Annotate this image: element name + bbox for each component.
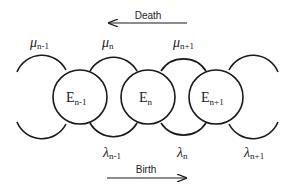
arc-top [90,57,137,71]
death-rates: μn-1 μn μn+1 [29,35,194,51]
death-rate-label: μn-1 [29,35,49,51]
birth-arrow: Birth [107,164,186,178]
arc-top [161,59,206,71]
arc-top [229,55,278,72]
birth-rate-label: λn [176,145,188,161]
arc-bottom [161,123,206,135]
birth-rate-label: λn-1 [102,145,121,161]
death-arrow: Death [109,10,187,23]
birth-death-diagram: Death μn-1 μn μn+1 En-1 En En+1 λn-1 λ [0,0,291,191]
birth-rates: λn-1 λn λn+1 [102,145,264,161]
death-rate-label: μn [101,35,114,51]
death-rate-label: μn+1 [172,35,194,51]
arc-bottom [229,122,278,139]
death-label: Death [135,10,162,21]
arc-bottom [17,122,66,139]
arc-bottom [90,123,137,137]
arc-top [17,55,66,72]
birth-label: Birth [136,164,157,175]
birth-rate-label: λn+1 [243,145,264,161]
